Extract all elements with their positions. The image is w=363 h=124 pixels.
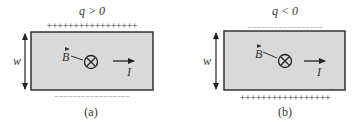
top-charges: – – – – – – – – – – – – – – – – – xyxy=(247,23,323,31)
bottom-charges: +++++++++++++++++ xyxy=(240,92,331,103)
panel-a: q > 0 +++++++++++++++++ w B I – – – – – … xyxy=(13,4,153,119)
bottom-charges: – – – – – – – – – – – – – – – – – xyxy=(54,92,130,100)
width-label: w xyxy=(203,54,211,68)
caption: (a) xyxy=(84,105,97,119)
top-charges: +++++++++++++++++ xyxy=(47,20,138,31)
charge-label: q < 0 xyxy=(272,4,298,18)
width-label: w xyxy=(13,54,21,68)
field-label: B xyxy=(255,47,263,61)
field-label: B xyxy=(62,50,70,64)
charge-label: q > 0 xyxy=(79,4,105,18)
hall-effect-diagram: q > 0 +++++++++++++++++ w B I – – – – – … xyxy=(0,0,363,124)
panel-b: q < 0 – – – – – – – – – – – – – – – – – … xyxy=(203,4,345,119)
caption: (b) xyxy=(278,105,292,119)
